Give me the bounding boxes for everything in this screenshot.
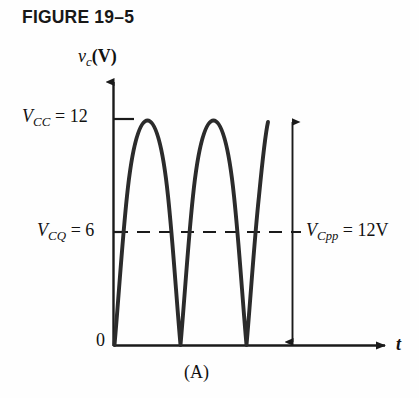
vcq-value: 6 <box>85 220 94 240</box>
vcc-subscript: CC <box>33 114 50 129</box>
vcpp-equals: = <box>338 220 357 240</box>
vcq-subscript: CQ <box>48 228 66 243</box>
vcc-equals: = <box>50 106 69 126</box>
origin-label: 0 <box>96 330 105 351</box>
y-axis-symbol: v <box>78 46 86 66</box>
figure-container: FIGURE 19–5 vc(V) <box>0 0 419 398</box>
vcc-value: 12 <box>70 106 88 126</box>
panel-caption: (A) <box>184 362 209 383</box>
vcq-equals: = <box>66 220 85 240</box>
x-axis-title: t <box>396 334 401 355</box>
vcc-annotation: VCC = 12 <box>22 106 88 130</box>
vcpp-subsubscript: pp <box>326 229 339 243</box>
vcq-annotation: VCQ = 6 <box>37 220 94 244</box>
vcpp-symbol: V <box>306 220 317 240</box>
vcpp-annotation: VCpp = 12V <box>306 220 389 244</box>
y-axis-title: vc(V) <box>78 46 117 70</box>
y-axis-unit: (V) <box>92 46 117 66</box>
vcc-symbol: V <box>22 106 33 126</box>
vcpp-subscript: C <box>317 228 326 243</box>
vcq-symbol: V <box>37 220 48 240</box>
waveform-plot <box>0 0 419 398</box>
vcpp-value: 12V <box>358 220 389 240</box>
